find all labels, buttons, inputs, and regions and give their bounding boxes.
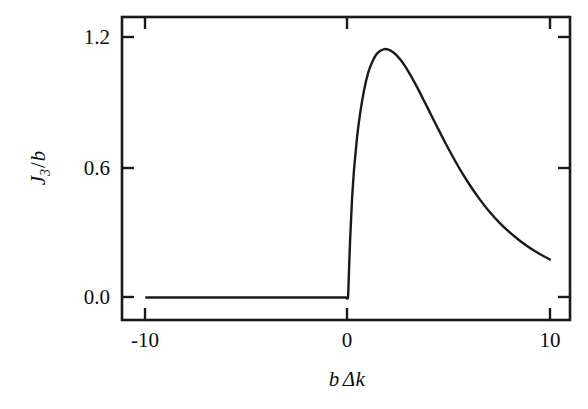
x-axis-variable: k xyxy=(356,367,366,391)
xtick-label-2: 10 xyxy=(540,330,561,351)
y-axis-denominator: b xyxy=(26,151,50,162)
data-series-group xyxy=(146,49,550,298)
y-axis-subscript: 3 xyxy=(38,169,53,176)
figure-container: 0.0 0.6 1.2 -10 0 10 J3/b bΔk xyxy=(0,0,588,409)
ytick-label-2: 1.2 xyxy=(58,27,110,48)
x-axis-title: bΔk xyxy=(329,367,366,392)
x-axis-symbol: b xyxy=(329,367,340,391)
axis-ticks xyxy=(122,17,570,320)
series-line-j3b xyxy=(146,49,550,298)
ytick-label-1: 0.6 xyxy=(58,158,110,179)
xtick-label-1: 0 xyxy=(342,330,353,351)
x-axis-delta: Δ xyxy=(340,367,356,391)
y-axis-title: J3/b xyxy=(26,148,54,188)
ytick-label-0: 0.0 xyxy=(58,287,110,308)
chart-canvas xyxy=(0,0,588,409)
xtick-label-0: -10 xyxy=(131,330,159,351)
axes-frame xyxy=(122,17,570,320)
y-axis-symbol: J xyxy=(26,176,50,185)
y-axis-slash: / xyxy=(26,161,50,169)
